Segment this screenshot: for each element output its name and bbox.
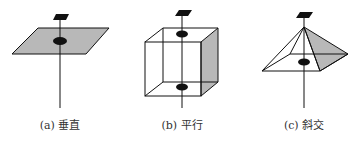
cube-top-left-edge	[145, 28, 163, 42]
cube-front-face	[145, 42, 201, 96]
intersection-dot	[53, 37, 67, 45]
pyramid-edge-back	[290, 27, 304, 54]
top-intersection-dot	[176, 31, 188, 38]
cube-bottom-left-edge	[145, 82, 163, 96]
caption-c: (c) 斜交	[284, 116, 324, 132]
flag-icon	[296, 12, 313, 18]
flag-icon	[175, 10, 192, 16]
figure-b-parallel	[145, 10, 218, 108]
figure-a-perpendicular	[12, 14, 109, 108]
bottom-intersection-dot	[176, 84, 188, 91]
flag-icon	[53, 14, 69, 20]
caption-b: (b) 平行	[161, 116, 202, 132]
intersection-dot	[298, 59, 310, 66]
pyramid-edge-left	[262, 27, 304, 71]
pyramid-shaded-face	[304, 27, 348, 71]
figure-c-oblique	[262, 12, 348, 108]
caption-a: (a) 垂直	[40, 116, 81, 132]
cube-side-face	[201, 28, 218, 96]
